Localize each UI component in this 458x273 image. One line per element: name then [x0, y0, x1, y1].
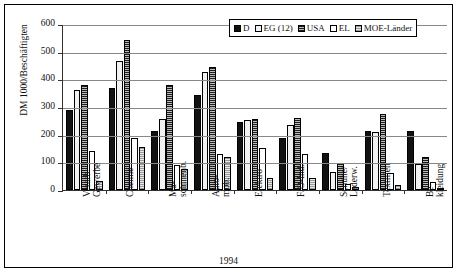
x-axis-tick [234, 190, 235, 194]
bar-eg [74, 90, 81, 190]
y-axis-tick-label: 600 [23, 19, 55, 29]
legend-item-usa: USA [298, 23, 325, 33]
bar-moe [309, 178, 316, 190]
bar-eg [159, 119, 166, 190]
y-axis-tick-label: 300 [23, 102, 55, 112]
legend-label: D [243, 23, 250, 33]
x-axis-tick [191, 190, 192, 194]
bar-moe [139, 147, 146, 190]
x-axis-label-cell: Auto-mob. [190, 195, 233, 257]
x-axis-tick [148, 190, 149, 194]
x-axis-label: Textilien [383, 163, 393, 197]
bar-d [407, 131, 414, 190]
y-axis-tick-label: 100 [23, 157, 55, 167]
x-axis-tick [319, 190, 320, 194]
bar-d [66, 110, 73, 190]
x-axis-label-cell: Ma-schinenb. [148, 195, 191, 257]
y-axis-tick-label: 200 [23, 130, 55, 140]
gridline [63, 108, 447, 109]
x-axis-label-cell: Verarb.Gewerbe [62, 195, 105, 257]
legend-item-moe: MOE-Länder [355, 23, 412, 33]
bar-eg [415, 164, 422, 190]
bar-eg [372, 132, 379, 190]
chart-legend: DEG (12)USAELMOE-Länder [229, 19, 417, 37]
y-axis-tick [58, 25, 63, 26]
bar-d [322, 153, 329, 190]
gridline [63, 80, 447, 81]
x-axis-label: Elektro [255, 169, 265, 197]
bar-d [194, 95, 201, 190]
bar-d [237, 122, 244, 190]
legend-swatch-icon [234, 25, 241, 32]
bar-d [109, 88, 116, 190]
bar-eg [202, 72, 209, 190]
x-axis-label-cell: F/O-Ind. [276, 195, 319, 257]
y-axis-tick [58, 80, 63, 81]
legend-label: USA [307, 23, 325, 33]
x-axis-label-cell: Textilien [361, 195, 404, 257]
bar-eg [244, 120, 251, 190]
bar-d [151, 131, 158, 190]
x-axis-label: Auto-mob. [212, 175, 231, 197]
y-axis-tick-label: 0 [23, 185, 55, 195]
bar-moe [395, 185, 402, 190]
x-axis-title: 1994 [5, 256, 452, 266]
x-axis-category-labels: Verarb.GewerbeChemieMa-schinenb.Auto-mob… [62, 195, 447, 257]
gridline [63, 136, 447, 137]
x-axis-label-cell: Schuhe/Lederw. [319, 195, 362, 257]
x-axis-label: Schuhe/Lederw. [340, 166, 359, 197]
y-axis-tick-label: 400 [23, 74, 55, 84]
x-axis-label: Verarb.Gewerbe [83, 163, 102, 197]
x-axis-tick [106, 190, 107, 194]
legend-label: EG (12) [264, 23, 293, 33]
y-axis-tick [58, 163, 63, 164]
legend-item-d: D [234, 23, 250, 33]
chart-frame: DM 1000/Beschäftigten 010020030040050060… [4, 4, 453, 268]
y-axis-tick-label: 500 [23, 47, 55, 57]
x-axis-label-cell: Be-kleidung [404, 195, 447, 257]
legend-swatch-icon [255, 25, 262, 32]
gridline [63, 53, 447, 54]
legend-swatch-icon [355, 25, 362, 32]
x-axis-tick [362, 190, 363, 194]
legend-swatch-icon [330, 25, 337, 32]
chart-screenshot: DM 1000/Beschäftigten 010020030040050060… [0, 0, 458, 273]
legend-item-eg: EG (12) [255, 23, 293, 33]
legend-swatch-icon [298, 25, 305, 32]
y-axis-tick [58, 136, 63, 137]
x-axis-label: F/O-Ind. [297, 164, 307, 197]
legend-label: EL [339, 23, 350, 33]
bar-moe [267, 178, 274, 190]
x-axis-label: Chemie [126, 167, 136, 197]
y-axis-tick [58, 53, 63, 54]
x-axis-label-cell: Chemie [105, 195, 148, 257]
legend-label: MOE-Länder [364, 23, 412, 33]
bar-eg [330, 172, 337, 190]
x-axis-label-cell: Elektro [233, 195, 276, 257]
x-axis-label: Ma-schinenb. [169, 161, 188, 197]
x-axis-label: Be-kleidung [426, 164, 445, 197]
y-axis-tick [58, 191, 63, 192]
y-axis-tick [58, 108, 63, 109]
bar-d [365, 131, 372, 190]
x-axis-tick [404, 190, 405, 194]
x-axis-tick [276, 190, 277, 194]
bar-usa [209, 67, 216, 190]
legend-item-el: EL [330, 23, 350, 33]
